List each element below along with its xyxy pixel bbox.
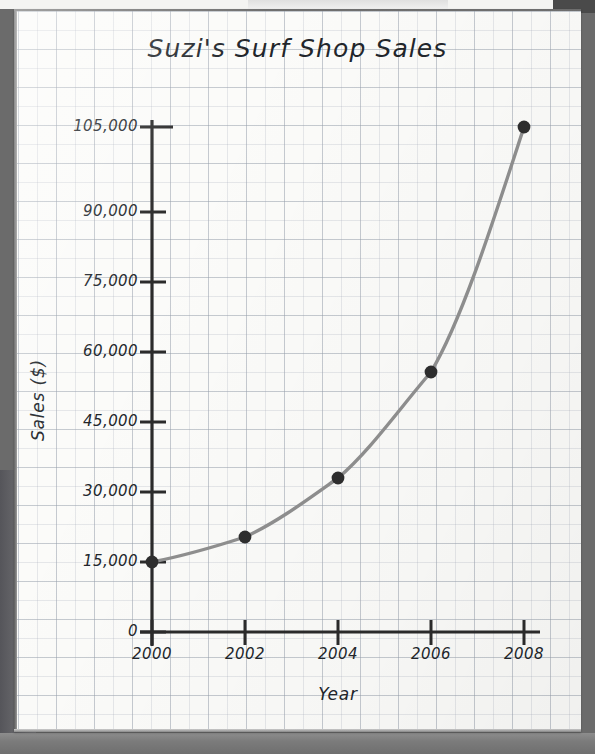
paper-edge-bottom xyxy=(14,729,581,732)
scan-bottom-dark-strip xyxy=(0,733,595,754)
graph-paper-sheet xyxy=(14,9,581,732)
scan-top-smudge xyxy=(248,0,448,9)
screenshot-canvas: Suzi's Surf Shop Sales xyxy=(0,0,595,754)
paper-edge-top xyxy=(14,9,581,11)
paper-edge-left xyxy=(14,9,17,732)
